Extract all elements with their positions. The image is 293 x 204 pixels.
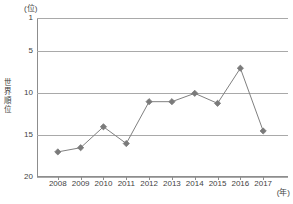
x-tick-mark-2013 <box>172 177 173 180</box>
series-line-world-ranking <box>37 18 288 177</box>
y-axis-title: 世 界 順 位 <box>2 78 13 114</box>
chart-figure: (位) 世 界 順 位 15101520 2008200920102011201… <box>0 0 293 204</box>
x-tick-label-2016: 2016 <box>231 180 249 188</box>
y-tick-label-10: 10 <box>24 89 33 97</box>
gridline-y-20 <box>37 177 288 178</box>
x-tick-mark-2010 <box>103 177 104 180</box>
data-point-2017 <box>260 128 266 134</box>
x-tick-label-2010: 2010 <box>95 180 113 188</box>
series-polyline <box>58 68 263 152</box>
y-axis-unit-label: (位) <box>24 2 37 13</box>
y-tick-label-20: 20 <box>24 173 33 181</box>
x-tick-label-2017: 2017 <box>254 180 272 188</box>
y-axis-title-char-4: 位 <box>2 105 13 114</box>
x-tick-mark-2014 <box>195 177 196 180</box>
x-tick-label-2015: 2015 <box>209 180 227 188</box>
x-tick-mark-2017 <box>263 177 264 180</box>
data-point-2015 <box>214 100 220 106</box>
y-tick-label-1: 1 <box>29 14 33 22</box>
x-tick-label-2008: 2008 <box>49 180 67 188</box>
x-tick-mark-2012 <box>149 177 150 180</box>
plot-area: 15101520 2008200920102011201220132014201… <box>37 18 288 177</box>
x-tick-mark-2008 <box>58 177 59 180</box>
x-tick-label-2012: 2012 <box>140 180 158 188</box>
y-axis-title-char-1: 世 <box>2 78 13 87</box>
data-point-2012 <box>146 99 152 105</box>
data-point-2008 <box>55 149 61 155</box>
y-tick-label-5: 5 <box>29 47 33 55</box>
x-tick-mark-2011 <box>126 177 127 180</box>
data-point-2016 <box>237 65 243 71</box>
x-tick-label-2009: 2009 <box>72 180 90 188</box>
x-tick-label-2014: 2014 <box>186 180 204 188</box>
y-tick-label-15: 15 <box>24 131 33 139</box>
x-tick-mark-2016 <box>240 177 241 180</box>
x-tick-mark-2015 <box>218 177 219 180</box>
y-axis-title-char-2: 界 <box>2 87 13 96</box>
x-tick-mark-2009 <box>81 177 82 180</box>
x-axis-unit-label: (年) <box>277 186 290 197</box>
data-point-2013 <box>169 99 175 105</box>
data-point-2014 <box>192 90 198 96</box>
x-tick-label-2013: 2013 <box>163 180 181 188</box>
y-axis-title-char-3: 順 <box>2 96 13 105</box>
x-tick-label-2011: 2011 <box>118 180 135 188</box>
